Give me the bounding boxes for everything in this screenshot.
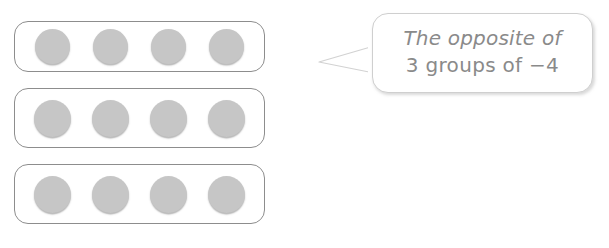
counter-chip <box>35 29 70 64</box>
speech-bubble: The opposite of 3 groups of −4 <box>318 13 593 95</box>
counter-group-1 <box>14 21 265 72</box>
counter-chip <box>92 176 129 213</box>
counter-chip <box>34 100 71 137</box>
counter-chip <box>208 176 245 213</box>
speech-bubble-line-2: 3 groups of −4 <box>406 52 559 79</box>
counter-chip <box>209 29 244 64</box>
counter-chip <box>208 100 245 137</box>
counter-group-stack <box>14 21 266 224</box>
counter-chip <box>150 100 187 137</box>
counter-chip <box>93 29 128 64</box>
counter-chip <box>151 29 186 64</box>
diagram-canvas: The opposite of 3 groups of −4 <box>0 0 609 248</box>
counter-group-3 <box>14 164 265 224</box>
counter-group-2 <box>14 88 265 148</box>
speech-bubble-line-1: The opposite of <box>403 25 561 52</box>
counter-chip <box>92 100 129 137</box>
counter-chip <box>150 176 187 213</box>
counter-chip <box>34 176 71 213</box>
speech-bubble-body: The opposite of 3 groups of −4 <box>372 13 593 93</box>
speech-bubble-tail-icon <box>318 43 378 75</box>
